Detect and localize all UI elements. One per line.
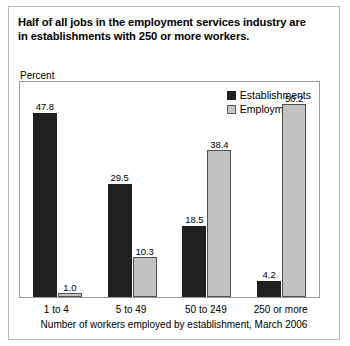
bar-establishments-1-to-4[interactable]: 47.8 — [33, 113, 57, 297]
x-axis-tick-label: 1 to 4 — [44, 303, 69, 316]
bar-employment-1-to-4[interactable]: 1.0 — [58, 293, 82, 297]
bar-container: 47.81.029.510.318.538.44.250.2 — [20, 82, 319, 297]
bar-value-label: 4.2 — [263, 270, 276, 280]
bar-group: 29.510.3 — [95, 82, 170, 297]
bar-employment-250-or-more[interactable]: 50.2 — [282, 104, 306, 297]
bar-employment-50-to-249[interactable]: 38.4 — [207, 150, 231, 297]
bar-employment-5-to-49[interactable]: 10.3 — [133, 257, 157, 297]
x-axis-tick-label: 50 to 249 — [185, 303, 227, 316]
x-axis-tick-label: 5 to 49 — [116, 303, 147, 316]
bar-establishments-5-to-49[interactable]: 29.5 — [108, 184, 132, 297]
plot-area: Establishments Employment 47.81.029.510.… — [19, 81, 320, 298]
x-axis-tick-labels: 1 to 45 to 4950 to 249250 or more — [19, 303, 320, 317]
bar-value-label: 47.8 — [36, 102, 55, 112]
figure-frame: Half of all jobs in the employment servi… — [8, 6, 340, 340]
bar-group: 4.250.2 — [244, 82, 319, 297]
bar-value-label: 29.5 — [110, 173, 129, 183]
x-axis-tick-label: 250 or more — [254, 303, 308, 316]
x-axis-caption: Number of workers employed by establishm… — [9, 318, 339, 331]
bar-value-label: 38.4 — [210, 140, 229, 150]
chart-title-line-2: in establishments with 250 or more worke… — [18, 29, 330, 43]
bar-group: 18.538.4 — [170, 82, 245, 297]
bar-value-label: 18.5 — [185, 215, 204, 225]
bar-establishments-50-to-249[interactable]: 18.5 — [182, 226, 206, 297]
bar-value-label: 1.0 — [63, 283, 76, 293]
chart-title-line-1: Half of all jobs in the employment servi… — [18, 15, 330, 29]
bar-group: 47.81.0 — [20, 82, 95, 297]
bar-value-label: 50.2 — [285, 94, 304, 104]
chart-title: Half of all jobs in the employment servi… — [18, 15, 330, 43]
bar-value-label: 10.3 — [135, 247, 154, 257]
bar-establishments-250-or-more[interactable]: 4.2 — [257, 281, 281, 297]
